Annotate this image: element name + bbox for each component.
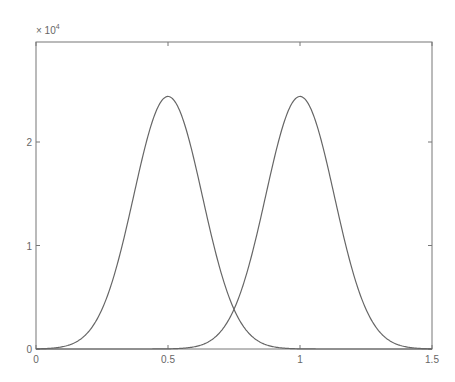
x-tick-label: 0.5 xyxy=(161,354,175,365)
y-tick-label: 0 xyxy=(26,344,32,355)
series-line-gaussian-1 xyxy=(36,96,432,349)
axis-ticks: 00.511.5012 xyxy=(26,42,439,365)
data-series xyxy=(36,96,432,349)
series-line-gaussian-2 xyxy=(36,96,432,349)
plot-area: 00.511.5012 × 104 xyxy=(0,0,455,382)
x-tick-label: 1.5 xyxy=(425,354,439,365)
axes-box xyxy=(36,42,432,349)
x-tick-label: 0 xyxy=(33,354,39,365)
y-exponent-label: × 104 xyxy=(36,23,60,36)
chart-figure: 00.511.5012 × 104 xyxy=(0,0,455,382)
y-tick-label: 2 xyxy=(26,137,32,148)
x-tick-label: 1 xyxy=(297,354,303,365)
y-tick-label: 1 xyxy=(26,241,32,252)
